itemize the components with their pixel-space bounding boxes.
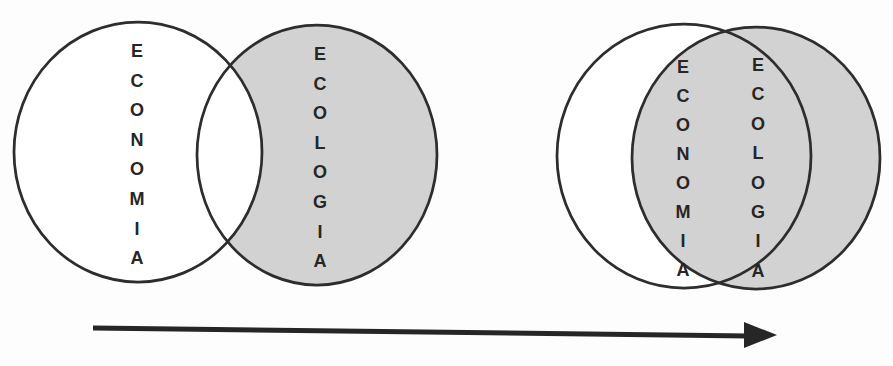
progression-arrow	[93, 322, 777, 348]
right-arrow-icon	[744, 322, 777, 348]
venn-diagram-svg: ECONOMIA ECOLOGIA ECONOMIA ECOLOGIA	[0, 0, 893, 366]
stage-integrated: ECONOMIA ECOLOGIA	[557, 24, 880, 289]
stage-separated: ECONOMIA ECOLOGIA	[14, 22, 437, 285]
venn-evolution-figure: ECONOMIA ECOLOGIA ECONOMIA ECOLOGIA	[0, 0, 893, 366]
right-arrow-shaft	[93, 328, 748, 336]
